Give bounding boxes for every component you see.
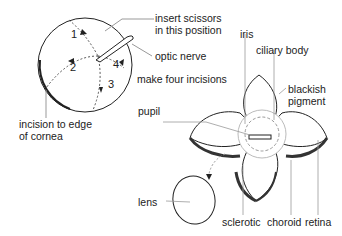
label-lens: lens bbox=[138, 196, 157, 208]
label-sclerotic: sclerotic bbox=[222, 216, 261, 228]
label-make-incisions: make four incisions bbox=[137, 73, 227, 85]
step-3: 3 bbox=[108, 78, 114, 90]
label-optic-nerve: optic nerve bbox=[155, 50, 206, 62]
step-4: 4 bbox=[113, 58, 119, 70]
step-1: 1 bbox=[71, 28, 77, 40]
pupil-slit bbox=[249, 135, 271, 139]
label-insert-scissors: insert scissors in this position bbox=[155, 12, 222, 36]
step-2: 2 bbox=[70, 61, 76, 73]
label-blackish-pigment: blackish pigment bbox=[288, 83, 326, 107]
label-ciliary-body: ciliary body bbox=[256, 44, 309, 56]
label-iris: iris bbox=[240, 28, 253, 40]
label-retina: retina bbox=[305, 216, 331, 228]
label-choroid: choroid bbox=[267, 216, 301, 228]
label-incision-edge: incision to edge of cornea bbox=[19, 118, 92, 142]
eyeball-figure bbox=[38, 18, 154, 118]
label-pupil: pupil bbox=[138, 105, 160, 117]
lens-shape bbox=[169, 173, 219, 228]
